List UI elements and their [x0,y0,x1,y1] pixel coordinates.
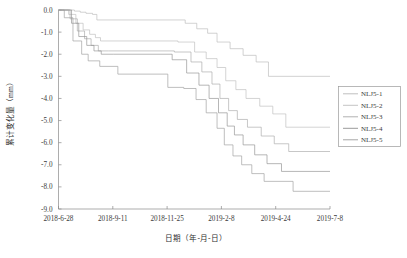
y-tick-label: -4.0 [41,95,53,103]
y-tick-label: -9.0 [41,206,53,214]
x-tick-label: 2019-4-24 [261,215,291,223]
y-tick-label: -2.0 [41,51,53,59]
x-tick-label: 2019-7-8 [317,215,344,223]
y-tick-label: -3.0 [41,73,53,81]
series-line-nlj5-1 [59,10,331,76]
chart-container: 累计变化量（mm） 0.0-1.0-2.0-3.0-4.0-5.0-6.0-7.… [0,0,407,258]
y-tick-label: 0.0 [44,7,53,15]
series-line-nlj5-5 [59,10,331,191]
y-tick-marks [59,10,62,209]
line-chart: 累计变化量（mm） 0.0-1.0-2.0-3.0-4.0-5.0-6.0-7.… [0,0,407,258]
data-series-group [59,10,331,191]
axes [59,10,331,209]
y-tick-labels: 0.0-1.0-2.0-3.0-4.0-5.0-6.0-7.0-8.0-9.0 [41,7,53,214]
x-tick-marks [59,206,331,209]
x-tick-label: 2019-2-8 [208,215,235,223]
y-tick-label: -5.0 [41,117,53,125]
legend-label-nlj5-4: NLJ5-4 [361,125,383,133]
legend-items: NLJ5-1NLJ5-2NLJ5-3NLJ5-4NLJ5-5 [343,90,383,144]
legend-label-nlj5-3: NLJ5-3 [361,113,383,121]
y-tick-label: -8.0 [41,183,53,191]
x-tick-label: 2018-9-11 [98,215,128,223]
legend: NLJ5-1NLJ5-2NLJ5-3NLJ5-4NLJ5-5 [339,87,401,147]
x-axis-title-text: 日期（年-月-日） [165,233,226,243]
y-tick-label: -7.0 [41,161,53,169]
x-tick-labels: 2018-6-282018-9-112018-11-252019-2-82019… [44,215,344,223]
x-tick-label: 2018-11-25 [150,215,184,223]
y-tick-label: -6.0 [41,139,53,147]
series-line-nlj5-3 [59,10,331,152]
series-line-nlj5-4 [59,10,331,171]
legend-label-nlj5-2: NLJ5-2 [361,102,383,110]
x-tick-label: 2018-6-28 [44,215,74,223]
legend-label-nlj5-5: NLJ5-5 [361,136,383,144]
y-axis-title: 累计变化量（mm） [5,78,15,146]
y-axis-title-text: 累计变化量（mm） [5,78,15,146]
series-line-nlj5-2 [59,10,331,127]
legend-label-nlj5-1: NLJ5-1 [361,90,383,98]
y-tick-label: -1.0 [41,29,53,37]
